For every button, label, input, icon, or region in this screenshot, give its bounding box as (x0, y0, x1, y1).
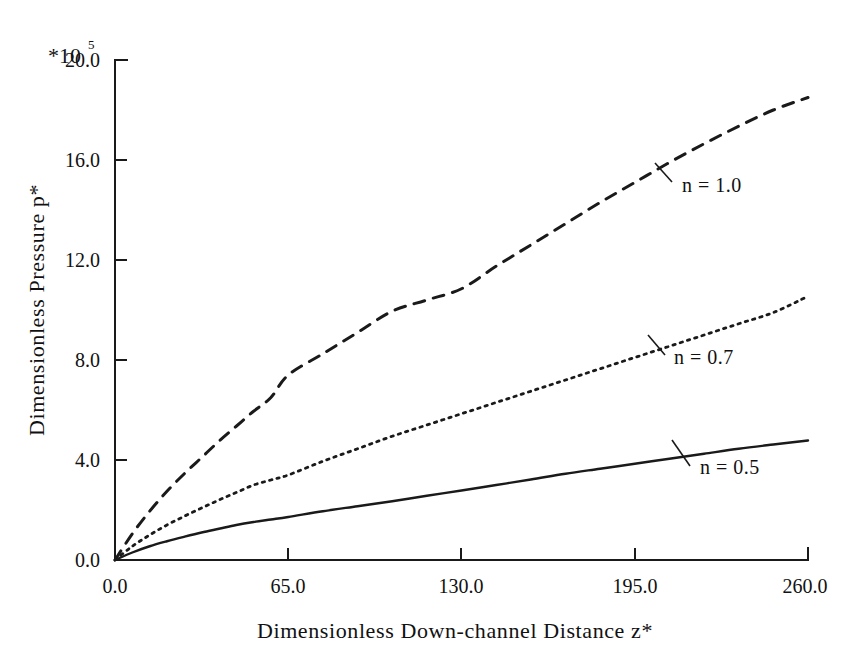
y-axis-tick-labels: 0.0 4.0 8.0 12.0 16.0 20.0 (65, 49, 100, 571)
y-axis-title: Dimensionless Pressure p* (24, 184, 49, 436)
y-tick-label-2: 8.0 (75, 349, 100, 371)
y-tick-label-4: 16.0 (65, 149, 100, 171)
x-axis-title: Dimensionless Down-channel Distance z* (257, 618, 653, 643)
x-tick-label-2: 130.0 (439, 575, 484, 597)
leader-line-n-0-5 (672, 440, 690, 466)
x-tick-label-1: 65.0 (271, 575, 306, 597)
y-tick-label-1: 4.0 (75, 449, 100, 471)
y-tick-label-3: 12.0 (65, 249, 100, 271)
x-tick-label-3: 195.0 (613, 575, 658, 597)
y-tick-label-0: 0.0 (75, 549, 100, 571)
multiplier-base: *10 (48, 43, 81, 68)
x-tick-label-0: 0.0 (103, 575, 128, 597)
y-axis-ticks (115, 60, 127, 560)
pressure-distance-chart: 0.0 4.0 8.0 12.0 16.0 20.0 0.0 65.0 130.… (0, 0, 868, 663)
series-annotation-n-0-7: n = 0.7 (674, 346, 734, 368)
x-axis-tick-labels: 0.0 65.0 130.0 195.0 260.0 (103, 575, 828, 597)
multiplier-exponent: 5 (88, 37, 95, 52)
x-axis-ticks (115, 548, 808, 560)
series-annotation-n-1-0: n = 1.0 (682, 174, 742, 196)
x-tick-label-4: 260.0 (783, 575, 828, 597)
axis-frame (115, 60, 808, 560)
series-curve-n-0-7 (115, 296, 808, 560)
figure-page: 0.0 4.0 8.0 12.0 16.0 20.0 0.0 65.0 130.… (0, 0, 868, 663)
series-annotation-n-0-5: n = 0.5 (700, 456, 760, 478)
